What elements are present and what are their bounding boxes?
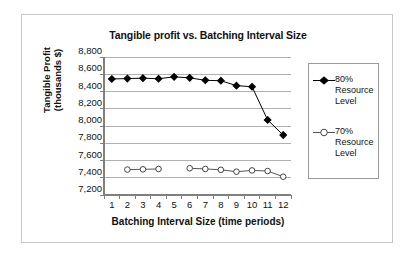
legend-label-80-line1: 80% [335, 74, 353, 84]
chart-title: Tangible profit vs. Batching Interval Si… [22, 29, 394, 41]
x-axis-title: Batching Interval Size (time periods) [58, 216, 338, 227]
open-circle-marker-icon [313, 127, 335, 138]
legend-label-70-line2: Resource [335, 137, 374, 147]
chart-legend: 80%ResourceLevel 70%ResourceLevel [308, 63, 379, 179]
legend-label-80-percent: 80%ResourceLevel [335, 74, 374, 107]
y-tick-label: 8,400 [58, 81, 102, 91]
x-tick-label: 1 [109, 199, 114, 210]
legend-item-80-percent[interactable]: 80%ResourceLevel [313, 74, 377, 107]
y-tick-label: 7,600 [58, 150, 102, 160]
x-tick-label: 6 [187, 199, 192, 210]
x-tick-label: 4 [156, 199, 161, 210]
x-tick-label: 12 [278, 199, 289, 210]
x-tick-label: 7 [203, 199, 208, 210]
y-tick-label: 8,800 [58, 46, 102, 56]
x-tick-label: 3 [140, 199, 145, 210]
legend-label-70-percent: 70%ResourceLevel [335, 126, 374, 159]
legend-label-80-line2: Resource [335, 85, 374, 95]
y-tick-label: 8,600 [58, 64, 102, 74]
x-tick-label: 5 [171, 199, 176, 210]
y-tick-label: 7,200 [58, 184, 102, 194]
x-tick-label: 11 [263, 199, 273, 210]
filled-diamond-marker-icon [313, 75, 335, 86]
x-axis-tick-labels: 123456789101112 [104, 199, 291, 213]
legend-label-70-line1: 70% [335, 126, 353, 136]
x-tick-label: 2 [125, 199, 130, 210]
plot-canvas [104, 57, 291, 195]
legend-label-80-line3: Level [335, 96, 357, 106]
y-tick-label: 7,800 [58, 133, 102, 143]
x-tick-label: 9 [234, 199, 239, 210]
y-tick-label: 8,000 [58, 115, 102, 125]
y-tick-label: 8,200 [58, 98, 102, 108]
plot-area [104, 57, 291, 195]
legend-item-70-percent[interactable]: 70%ResourceLevel [313, 126, 377, 159]
legend-label-70-line3: Level [335, 148, 357, 158]
x-tick-label: 8 [218, 199, 223, 210]
chart-figure-frame: Tangible profit vs. Batching Interval Si… [21, 14, 393, 243]
x-tick-label: 10 [247, 199, 258, 210]
y-axis-title-line-1: Tangible Profit [41, 47, 53, 113]
y-tick-label: 7,400 [58, 167, 102, 177]
y-axis-tick-labels: 7,2007,4007,6007,8008,0008,2008,4008,600… [58, 51, 102, 189]
